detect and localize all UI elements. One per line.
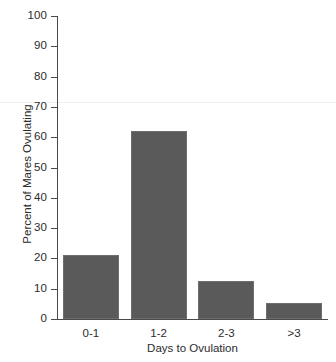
- y-tick-mark: [51, 77, 57, 78]
- x-axis-title: Days to Ovulation: [57, 342, 328, 354]
- y-tick-mark: [51, 198, 57, 199]
- y-tick-label: 0: [41, 313, 48, 325]
- y-axis-title: Percent of Mares Ovulating: [21, 84, 33, 264]
- y-tick-label: 20: [34, 252, 47, 264]
- bar-chart: 0102030405060708090100 Percent of Mares …: [0, 0, 336, 362]
- y-tick-label: 80: [34, 71, 47, 83]
- x-axis-line: [57, 319, 328, 320]
- y-tick-mark: [51, 258, 57, 259]
- y-tick-mark: [51, 137, 57, 138]
- y-tick-label: 50: [34, 162, 47, 174]
- y-tick-mark: [51, 107, 57, 108]
- bar: [131, 131, 187, 319]
- y-axis-line: [57, 16, 58, 320]
- y-tick-mark: [51, 228, 57, 229]
- y-tick-mark: [51, 168, 57, 169]
- bar: [266, 303, 322, 319]
- y-tick-mark: [51, 16, 57, 17]
- y-tick-label: 60: [34, 131, 47, 143]
- x-tick-label: >3: [260, 327, 328, 339]
- y-tick-label: 40: [34, 192, 47, 204]
- y-tick-label: 10: [34, 283, 47, 295]
- x-tick-label: 2-3: [193, 327, 261, 339]
- y-tick-mark: [51, 289, 57, 290]
- scan-line-artifact: [0, 102, 336, 103]
- y-tick-mark: [51, 319, 57, 320]
- bar: [198, 281, 254, 319]
- y-tick-label: 70: [34, 101, 47, 113]
- bar: [63, 255, 119, 319]
- x-tick-label: 0-1: [57, 327, 125, 339]
- y-tick-label: 90: [34, 40, 47, 52]
- y-tick-label: 30: [34, 222, 47, 234]
- y-tick-label: 100: [28, 10, 48, 22]
- x-tick-label: 1-2: [125, 327, 193, 339]
- y-tick-mark: [51, 46, 57, 47]
